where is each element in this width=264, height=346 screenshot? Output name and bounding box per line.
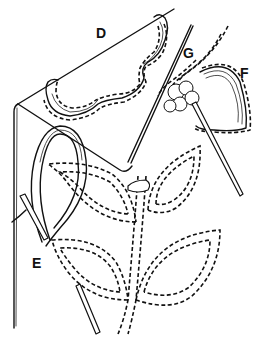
line-art-drawing	[0, 0, 264, 346]
illustration: D G F E	[0, 0, 264, 346]
label-g: G	[183, 46, 194, 60]
needle-e	[12, 194, 100, 334]
thimble	[128, 180, 150, 192]
fabric-sheet-d	[14, 9, 174, 328]
label-e: E	[32, 256, 41, 270]
label-f: F	[240, 66, 249, 80]
short-needle	[192, 102, 243, 196]
label-d: D	[96, 26, 106, 40]
leaf-branch-pattern	[48, 146, 220, 334]
